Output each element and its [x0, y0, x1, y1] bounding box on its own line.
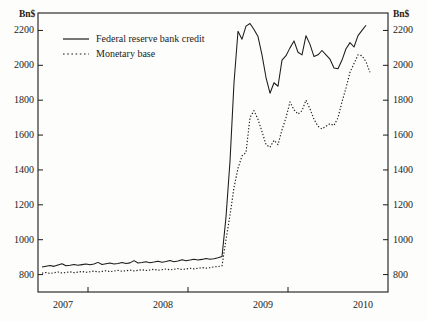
x-axis-ticks [88, 287, 288, 292]
y-tick-label-right: 1200 [393, 199, 413, 210]
y-tick-label-right: 1800 [393, 94, 413, 105]
series-line-monetary-base [42, 55, 370, 274]
y-tick-label-right: 1000 [393, 234, 413, 245]
x-tick-label: 2009 [249, 299, 277, 310]
chart-legend: Federal reserve bank credit Monetary bas… [62, 32, 237, 62]
y-tick-label-right: 1600 [393, 129, 413, 140]
y-tick-label-left: 1200 [8, 199, 34, 210]
legend-swatch-dotted-line [62, 47, 90, 61]
right-axis-unit-label: Bn$ [393, 9, 409, 19]
y-tick-label-left: 1400 [8, 164, 34, 175]
y-tick-label-right: 2200 [393, 24, 413, 35]
y-tick-label-right: 1400 [393, 164, 413, 175]
x-tick-label: 2008 [149, 299, 177, 310]
x-tick-label: 2010 [349, 299, 377, 310]
legend-swatch-solid-line [62, 32, 90, 46]
left-axis-unit-label: Bn$ [19, 9, 35, 19]
y-tick-label-right: 800 [393, 269, 408, 280]
y-tick-label-left: 2200 [8, 24, 34, 35]
y-tick-label-left: 1800 [8, 94, 34, 105]
y-tick-label-left: 1000 [8, 234, 34, 245]
legend-entry-federal-reserve-bank-credit: Federal reserve bank credit [62, 32, 237, 47]
y-axis-ticks [38, 30, 388, 274]
legend-entry-monetary-base: Monetary base [62, 47, 237, 62]
x-tick-label: 2007 [49, 299, 77, 310]
y-tick-label-left: 800 [8, 269, 34, 280]
legend-label-monetary-base: Monetary base [96, 48, 155, 59]
y-tick-label-right: 2000 [393, 59, 413, 70]
legend-label-federal-reserve-bank-credit: Federal reserve bank credit [96, 33, 205, 44]
y-tick-label-left: 1600 [8, 129, 34, 140]
y-tick-label-left: 2000 [8, 59, 34, 70]
chart-figure: Bn$ Bn$ 8001000120014001600180020002200 … [0, 0, 427, 322]
